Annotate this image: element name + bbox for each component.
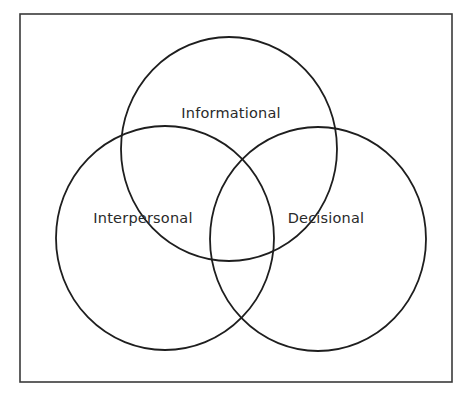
diagram-frame bbox=[20, 14, 452, 382]
label-decisional: Decisional bbox=[288, 210, 365, 226]
venn-diagram: Informational Interpersonal Decisional bbox=[0, 0, 464, 398]
label-informational: Informational bbox=[181, 105, 280, 121]
label-interpersonal: Interpersonal bbox=[93, 210, 192, 226]
circle-informational bbox=[121, 37, 337, 261]
